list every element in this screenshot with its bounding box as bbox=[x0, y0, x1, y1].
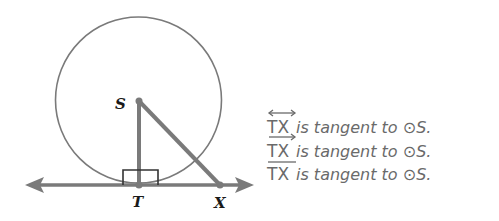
point-x bbox=[217, 182, 224, 189]
statement-ray: TX is tangent to ⊙S. bbox=[266, 134, 431, 161]
statement-text: is tangent to bbox=[296, 118, 403, 137]
circle-name: S. bbox=[416, 165, 431, 184]
label-s: S bbox=[115, 95, 126, 113]
segment-name: TX bbox=[266, 164, 289, 184]
statement-text: is tangent to bbox=[296, 142, 403, 161]
tangent-diagram: S T X TX is tangent to ⊙S. TX is tangent… bbox=[0, 0, 499, 221]
segment-name: TX bbox=[266, 117, 289, 137]
point-s bbox=[136, 98, 143, 105]
statement-text: is tangent to bbox=[296, 165, 403, 184]
svg-text:is tangent to ⊙S.: is tangent to ⊙S. bbox=[296, 165, 431, 184]
circle-symbol-icon: ⊙ bbox=[403, 142, 416, 161]
label-x: X bbox=[213, 194, 227, 212]
circle-name: S. bbox=[416, 142, 431, 161]
line-notation-icon bbox=[269, 110, 295, 116]
circle-symbol-icon: ⊙ bbox=[403, 165, 416, 184]
statement-segment: TX is tangent to ⊙S. bbox=[266, 162, 431, 184]
svg-text:is tangent to ⊙S.: is tangent to ⊙S. bbox=[296, 142, 431, 161]
label-t: T bbox=[132, 193, 145, 211]
point-t bbox=[136, 182, 143, 189]
circle-symbol-icon: ⊙ bbox=[403, 118, 416, 137]
svg-text:is tangent to ⊙S.: is tangent to ⊙S. bbox=[296, 118, 431, 137]
circle-name: S. bbox=[416, 118, 431, 137]
segment-name: TX bbox=[266, 141, 289, 161]
statement-line: TX is tangent to ⊙S. bbox=[266, 110, 431, 137]
